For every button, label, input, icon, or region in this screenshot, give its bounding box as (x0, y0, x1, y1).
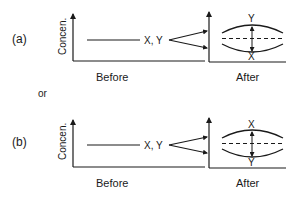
after-top-label: X (248, 119, 255, 130)
after-bottom-label: Y (248, 157, 255, 168)
before-caption: Before (96, 177, 128, 189)
panel-b: (b) Concen. X, Y Before X Y After (12, 118, 286, 189)
before-axes (73, 120, 205, 167)
y-axis-label: Concen. (57, 18, 68, 55)
separator-or: or (38, 88, 48, 99)
diagram-canvas: (a) Concen. X, Y Before Y X Af (0, 0, 302, 202)
panel-label: (a) (12, 32, 27, 46)
after-bottom-label: X (248, 51, 255, 62)
diverging-arrows (169, 137, 207, 153)
panel-label: (b) (12, 135, 27, 149)
before-curve-label: X, Y (144, 35, 163, 46)
after-top-label: Y (248, 13, 255, 24)
before-curve-label: X, Y (144, 140, 163, 151)
after-caption: After (236, 71, 260, 83)
after-caption: After (236, 177, 260, 189)
diverging-arrows (169, 31, 207, 48)
after-profile (222, 130, 283, 157)
y-axis-label: Concen. (57, 123, 68, 160)
before-caption: Before (96, 71, 128, 83)
before-axes (73, 14, 205, 61)
panel-a: (a) Concen. X, Y Before Y X Af (12, 12, 286, 83)
after-profile (222, 25, 283, 52)
